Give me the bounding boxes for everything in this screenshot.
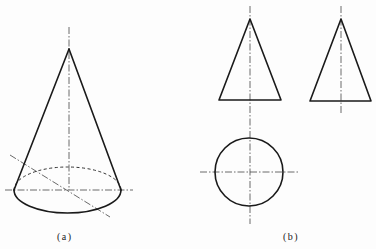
panel-a-pictorial-cone: (a) [5, 27, 133, 243]
side-view-triangle [310, 19, 371, 101]
cone-depth-axis [10, 155, 110, 217]
panel-a-label: (a) [57, 231, 73, 243]
panel-b-orthographic-views: (b) [200, 6, 371, 243]
top-view [200, 138, 299, 206]
cone-drawing: (a) (b) [0, 0, 376, 249]
cone-base-visible-edge [14, 190, 121, 213]
cone-base-hidden-edge [14, 167, 121, 190]
panel-b-label: (b) [283, 231, 299, 243]
side-view [310, 6, 371, 113]
cone-left-edge [14, 49, 69, 190]
front-view [219, 6, 281, 224]
cone-right-edge [69, 49, 121, 190]
